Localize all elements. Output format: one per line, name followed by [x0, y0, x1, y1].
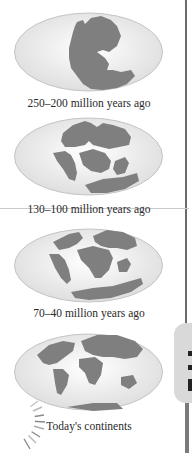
map-breakup: [13, 117, 164, 196]
map-caption: 250–200 million years ago: [0, 97, 178, 109]
sunburst-decoration-icon: [0, 385, 48, 453]
map-caption: 130–100 million years ago: [0, 203, 178, 215]
map-caption: 70–40 million years ago: [0, 307, 178, 319]
map-drifting: [13, 228, 164, 303]
text-fragment: [188, 351, 192, 356]
sidebar-callout-box: [174, 323, 192, 403]
map-pangaea: [13, 12, 164, 92]
sidebar-edge: [185, 403, 189, 453]
text-fragment: [188, 365, 192, 370]
text-fragment: [188, 379, 192, 391]
